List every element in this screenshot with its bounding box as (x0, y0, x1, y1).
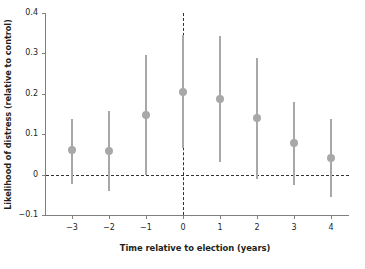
x-tick-mark (220, 216, 221, 219)
x-tick-mark (146, 216, 147, 219)
y-tick-label-wrap: 0 (12, 171, 38, 179)
y-tick-mark (42, 175, 45, 176)
figure-canvas: Likelihood of distress (relative to cont… (0, 0, 365, 269)
x-tick-mark (331, 216, 332, 219)
x-tick-label: −1 (134, 224, 158, 232)
x-tick-label: −2 (97, 224, 121, 232)
y-axis-line (45, 13, 46, 216)
y-tick-label-wrap: −0.1 (12, 211, 38, 219)
y-tick-label-wrap: 0.3 (12, 49, 38, 57)
x-tick-mark (294, 216, 295, 219)
data-point[interactable] (290, 139, 298, 147)
data-point[interactable] (327, 154, 335, 162)
data-point[interactable] (142, 111, 150, 119)
y-tick-mark (42, 53, 45, 54)
y-tick-label: 0.3 (12, 49, 38, 57)
y-tick-mark (42, 94, 45, 95)
y-tick-label: 0.2 (12, 90, 38, 98)
y-tick-label: 0 (12, 171, 38, 179)
y-tick-label: −0.1 (12, 211, 38, 219)
x-tick-mark (183, 216, 184, 219)
x-tick-label: 4 (319, 224, 343, 232)
zero-reference-line-horizontal (46, 175, 349, 176)
x-tick-label: 3 (282, 224, 306, 232)
x-tick-label: 2 (245, 224, 269, 232)
y-axis-title: Likelihood of distress (relative to cont… (1, 7, 15, 222)
y-tick-mark (42, 13, 45, 14)
data-point[interactable] (105, 147, 113, 155)
x-tick-mark (109, 216, 110, 219)
x-tick-label: 1 (208, 224, 232, 232)
x-axis-line (45, 215, 349, 216)
x-tick-label: 0 (171, 224, 195, 232)
y-tick-label-wrap: 0.1 (12, 130, 38, 138)
x-tick-mark (257, 216, 258, 219)
data-point[interactable] (253, 114, 261, 122)
y-tick-mark (42, 134, 45, 135)
data-point[interactable] (68, 146, 76, 154)
y-tick-label-wrap: 0.4 (12, 9, 38, 17)
y-tick-label: 0.1 (12, 130, 38, 138)
y-tick-label-wrap: 0.2 (12, 90, 38, 98)
x-tick-label: −3 (60, 224, 84, 232)
x-tick-mark (72, 216, 73, 219)
y-tick-label: 0.4 (12, 9, 38, 17)
x-axis-title: Time relative to election (years) (45, 243, 345, 253)
data-point[interactable] (216, 95, 224, 103)
data-point[interactable] (179, 88, 187, 96)
y-tick-mark (42, 215, 45, 216)
